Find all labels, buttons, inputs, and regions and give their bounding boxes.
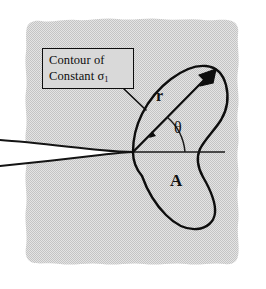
figure-container: Contour of Constant σ1 r θ A (0, 0, 266, 289)
gray-field-region (25, 18, 238, 264)
crack-tip-diagram (0, 0, 266, 289)
